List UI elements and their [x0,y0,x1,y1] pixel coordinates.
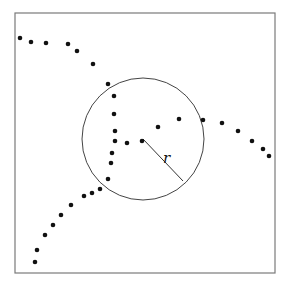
data-point [44,41,49,46]
circle-neighborhood-diagram: r [0,0,290,284]
data-point [110,151,115,156]
data-point [201,118,206,123]
point-sequence [18,36,272,265]
data-point [109,161,114,166]
radius-label: r [163,149,171,167]
data-point [75,49,80,54]
data-point [66,42,71,47]
data-point [69,203,74,208]
data-point [261,147,266,152]
data-point [82,194,87,199]
data-point [106,177,111,182]
data-point [125,141,130,146]
data-point [29,40,34,45]
data-point [51,223,56,228]
data-point [98,187,103,192]
data-point [112,94,117,99]
data-point [220,121,225,126]
data-point [236,129,241,134]
data-point [267,154,272,159]
data-point [106,82,111,87]
frame-border [15,13,275,273]
data-point [35,248,40,253]
data-point [113,139,118,144]
data-point [43,233,48,238]
data-point [140,139,145,144]
data-point [18,36,23,41]
data-point [91,62,96,67]
data-point [177,117,182,122]
data-point [112,112,117,117]
data-point [156,125,161,130]
data-point [113,129,118,134]
data-point [90,191,95,196]
data-point [250,139,255,144]
data-point [33,260,38,265]
data-point [59,213,64,218]
